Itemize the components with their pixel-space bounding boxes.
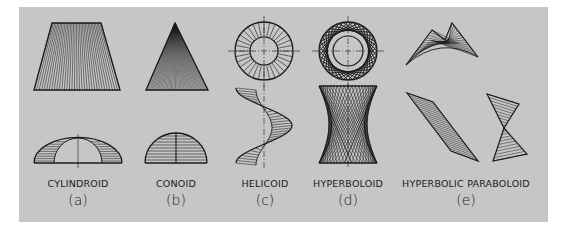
letter-c: (c): [256, 192, 275, 208]
letter-a: (a): [68, 192, 88, 208]
hyperbolic-paraboloid-drawing: [406, 23, 527, 161]
label-conoid: CONOID: [156, 178, 196, 189]
cylindroid-drawing: [34, 23, 122, 168]
hyperboloid-drawing: [312, 16, 384, 168]
letter-e: (e): [456, 192, 476, 208]
helicoid-drawing: [228, 16, 300, 168]
label-hyperboloid: HYPERBOLOID: [313, 178, 383, 189]
letter-d: (d): [338, 192, 358, 208]
label-helicoid: HELICOID: [241, 178, 288, 189]
label-hyperbolic-paraboloid: HYPERBOLIC PARABOLOID: [402, 178, 530, 189]
conoid-drawing: [145, 23, 208, 163]
letter-b: (b): [166, 192, 186, 208]
label-cylindroid: CYLINDROID: [48, 178, 109, 189]
